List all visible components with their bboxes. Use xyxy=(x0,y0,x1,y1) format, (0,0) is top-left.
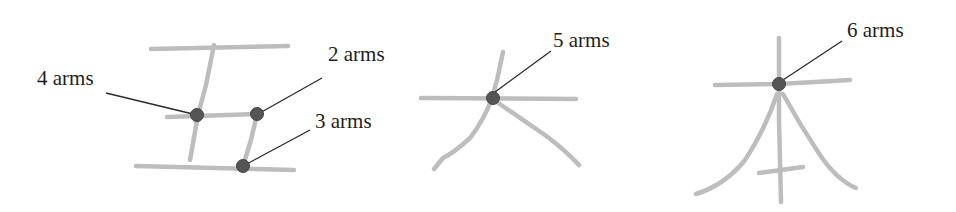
character-ben xyxy=(696,38,856,202)
label-3-arms: 3 arms xyxy=(315,111,372,132)
label-6-arms: 6 arms xyxy=(847,20,904,41)
junction-node-6-arms xyxy=(773,78,786,91)
stroke-bottom-short-horizontal xyxy=(759,167,803,173)
stroke-left-sweep xyxy=(434,52,503,169)
leader-line-6-arms xyxy=(783,41,842,80)
diagram-canvas xyxy=(0,0,956,212)
junction-node-5-arms xyxy=(487,92,500,105)
stroke-right-sweep xyxy=(783,94,856,188)
leader-line-4-arms xyxy=(106,93,197,115)
character-wu xyxy=(106,45,322,173)
leader-line-2-arms xyxy=(258,78,322,114)
junction-node-2-arms xyxy=(251,108,264,121)
stroke-vertical xyxy=(190,45,214,160)
junction-node-3-arms xyxy=(237,160,250,173)
label-4-arms: 4 arms xyxy=(37,68,94,89)
stroke-bottom-horizontal xyxy=(136,166,294,170)
label-2-arms: 2 arms xyxy=(328,44,385,65)
stroke-middle-horizontal xyxy=(167,114,257,117)
stroke-right-sweep xyxy=(494,100,579,165)
stroke-vertical xyxy=(779,38,781,202)
stroke-top-horizontal xyxy=(151,46,288,49)
stroke-right-vertical xyxy=(243,114,257,166)
label-5-arms: 5 arms xyxy=(553,30,610,51)
stroke-left-sweep xyxy=(696,94,777,194)
junction-node-4-arms xyxy=(191,109,204,122)
character-da xyxy=(421,51,579,169)
